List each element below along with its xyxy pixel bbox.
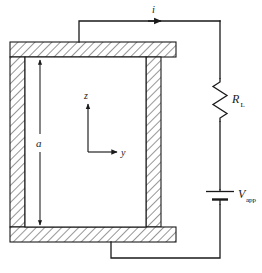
waveguide-circuit-figure: R L V app i a z y [0, 0, 262, 273]
resistor-label-subscript: L [241, 101, 245, 109]
wire-top [79, 21, 220, 42]
wall-bottom [10, 227, 176, 242]
axis-y-label: y [120, 147, 126, 158]
hatched-conductor-walls [10, 42, 176, 242]
wall-right [146, 57, 161, 227]
voltage-source: V app [206, 187, 257, 205]
waveguide-cavity [25, 57, 146, 227]
current-label: i [152, 4, 155, 15]
load-resistor: R L [213, 78, 245, 122]
resistor-zigzag [213, 78, 227, 122]
wall-left [10, 57, 25, 227]
wall-top [10, 42, 176, 57]
source-label-subscript: app [246, 196, 257, 204]
resistor-label: R [231, 92, 240, 106]
current-direction-arrow: i [148, 4, 161, 21]
axis-z-label: z [83, 90, 88, 101]
figure-canvas: R L V app i a z y [0, 0, 262, 273]
dimension-label: a [36, 137, 42, 149]
